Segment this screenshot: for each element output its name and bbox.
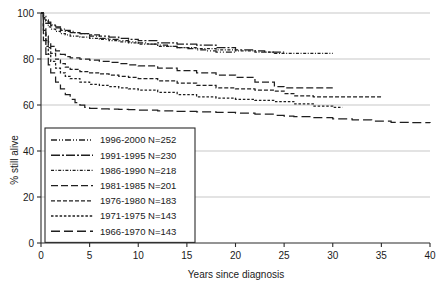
x-tick-label-20: 20 (230, 250, 242, 261)
x-tick-label-10: 10 (133, 250, 145, 261)
y-axis-title: % still alive (9, 135, 20, 185)
legend-label-1981-1985: 1981-1985 N=201 (100, 180, 176, 191)
x-tick-label-40: 40 (424, 250, 436, 261)
x-tick-label-15: 15 (181, 250, 193, 261)
curve-1966-1970 (41, 13, 430, 123)
y-tick-label-0: 0 (28, 238, 34, 249)
legend-label-1996-2000: 1996-2000 N=252 (100, 134, 176, 145)
curve-1971-1975 (41, 13, 342, 107)
legend-label-1986-1990: 1986-1990 N=218 (100, 165, 176, 176)
x-tick-label-30: 30 (327, 250, 339, 261)
x-tick-label-0: 0 (38, 250, 44, 261)
y-axis: 020406080100 (17, 8, 41, 249)
curve-1981-1985 (41, 13, 333, 88)
y-tick-label-60: 60 (23, 100, 35, 111)
legend-label-1966-1970: 1966-1970 N=143 (100, 226, 176, 237)
legend-label-1976-1980: 1976-1980 N=183 (100, 195, 176, 206)
legend-label-1991-1995: 1991-1995 N=230 (100, 150, 176, 161)
data-curves (41, 13, 430, 123)
y-tick-label-40: 40 (23, 146, 35, 157)
x-tick-label-35: 35 (376, 250, 388, 261)
x-tick-label-25: 25 (279, 250, 291, 261)
legend: 1996-2000 N=2521991-1995 N=2301986-1990 … (45, 128, 195, 242)
y-tick-label-80: 80 (23, 54, 35, 65)
x-axis-title: Years since diagnosis (188, 269, 284, 280)
x-axis: 0510152025303540 (38, 243, 436, 261)
legend-label-1971-1975: 1971-1975 N=143 (100, 210, 176, 221)
y-tick-label-100: 100 (17, 8, 34, 19)
chart-svg: 020406080100 0510152025303540 % still al… (0, 0, 448, 286)
survival-chart-figure: 020406080100 0510152025303540 % still al… (0, 0, 448, 286)
x-tick-label-5: 5 (87, 250, 93, 261)
y-tick-label-20: 20 (23, 192, 35, 203)
curve-1991-1995 (41, 13, 284, 52)
